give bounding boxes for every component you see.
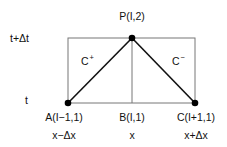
t-lower-label: t [25, 94, 28, 106]
point-a [65, 100, 72, 107]
t-upper-label: t+Δt [10, 32, 29, 44]
c-plus-label: C+ [81, 53, 95, 67]
x-plus-label: x+Δx [184, 129, 208, 141]
point-c [192, 100, 199, 107]
point-a-label: A(I−1,1) [45, 111, 83, 123]
point-c-label: C(I+1,1) [177, 111, 215, 123]
characteristics-diagram: t+Δt t P(I,2) A(I−1,1) B(I,1) C(I+1,1) x… [0, 0, 227, 147]
point-p [129, 35, 136, 42]
x-label: x [129, 129, 135, 141]
c-minus-line [132, 38, 195, 103]
c-plus-line [68, 38, 132, 103]
c-minus-label: C− [172, 53, 186, 67]
point-b-label: B(I,1) [119, 111, 145, 123]
x-minus-label: x−Δx [52, 129, 76, 141]
point-p-label: P(I,2) [119, 10, 145, 22]
